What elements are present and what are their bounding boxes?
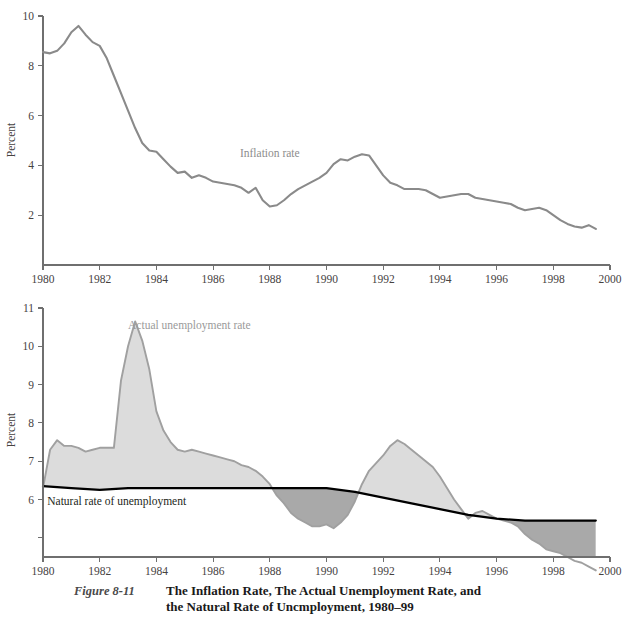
inflation-chart-panel: 2468101980198219841986198819901992199419… (0, 0, 640, 290)
svg-text:1992: 1992 (372, 565, 395, 577)
inflation-rate-series-label: Inflation rate (240, 147, 300, 159)
svg-text:1984: 1984 (145, 565, 168, 577)
svg-text:1998: 1998 (542, 565, 565, 577)
svg-text:1998: 1998 (542, 273, 565, 285)
svg-text:1992: 1992 (372, 273, 395, 285)
natural-rate-series-label: Natural rate of unemployment (47, 495, 187, 508)
inflation-axes (38, 16, 610, 270)
svg-text:1994: 1994 (428, 565, 451, 577)
figure-title: The Inflation Rate, The Actual Unemploym… (166, 583, 481, 615)
svg-text:2000: 2000 (599, 565, 622, 577)
svg-text:1984: 1984 (145, 273, 168, 285)
svg-text:11: 11 (23, 302, 34, 314)
svg-text:1980: 1980 (32, 273, 55, 285)
inflation-chart-svg: 2468101980198219841986198819901992199419… (0, 0, 640, 290)
svg-text:1982: 1982 (88, 565, 111, 577)
svg-text:8: 8 (28, 417, 34, 429)
svg-text:10: 10 (23, 10, 35, 22)
inflation-tick-labels: 2468101980198219841986198819901992199419… (23, 10, 622, 285)
svg-text:1980: 1980 (32, 565, 55, 577)
svg-text:1994: 1994 (428, 273, 451, 285)
svg-text:1996: 1996 (485, 273, 508, 285)
svg-text:1986: 1986 (202, 273, 225, 285)
unemployment-chart-svg: 6789101119801982198419861988199019921994… (0, 290, 640, 580)
svg-text:1986: 1986 (202, 565, 225, 577)
figure-number: Figure 8-11 (74, 583, 166, 599)
svg-text:4: 4 (28, 159, 34, 171)
inflation-rate-line (43, 26, 596, 229)
figure-caption: Figure 8-11 The Inflation Rate, The Actu… (0, 583, 640, 619)
svg-text:9: 9 (28, 379, 34, 391)
svg-text:8: 8 (28, 60, 34, 72)
figure-container: 2468101980198219841986198819901992199419… (0, 0, 640, 619)
svg-text:1996: 1996 (485, 565, 508, 577)
actual-unemployment-series-label: Actual unemployment rate (128, 319, 251, 332)
inflation-y-axis-title: Percent (5, 122, 17, 157)
svg-text:6: 6 (28, 494, 34, 506)
unemployment-chart-panel: 6789101119801982198419861988199019921994… (0, 290, 640, 580)
svg-text:1982: 1982 (88, 273, 111, 285)
svg-text:10: 10 (23, 340, 35, 352)
figure-title-line1: The Inflation Rate, The Actual Unemploym… (166, 583, 481, 598)
figure-title-line2: the Natural Rate of Uncmployment, 1980–9… (166, 599, 414, 614)
svg-text:1988: 1988 (258, 273, 281, 285)
svg-text:1988: 1988 (258, 565, 281, 577)
svg-text:2000: 2000 (599, 273, 622, 285)
svg-text:2: 2 (28, 209, 34, 221)
svg-text:6: 6 (28, 110, 34, 122)
unemployment-y-axis-title: Percent (5, 412, 17, 447)
svg-text:1990: 1990 (315, 273, 338, 285)
svg-text:1990: 1990 (315, 565, 338, 577)
svg-text:7: 7 (28, 455, 34, 467)
